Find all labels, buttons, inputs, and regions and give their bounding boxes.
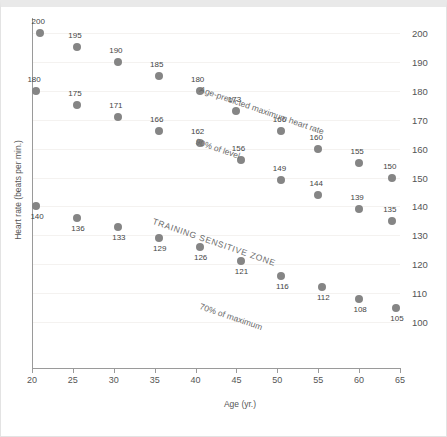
y-axis-tick-label: 120	[412, 259, 428, 270]
gridline	[32, 322, 400, 323]
data-point-label: 133	[112, 233, 125, 242]
x-axis-tick	[73, 368, 74, 373]
x-axis-tick-label: 55	[313, 375, 323, 385]
data-point	[388, 174, 396, 182]
data-point-label: 180	[191, 75, 204, 84]
x-axis-tick	[318, 368, 319, 373]
data-point-label: 155	[350, 147, 363, 156]
data-point-label: 149	[273, 164, 286, 173]
x-axis-tick	[32, 368, 33, 373]
x-axis-tick	[359, 368, 360, 373]
data-point	[314, 145, 322, 153]
data-point	[237, 257, 245, 265]
gridline	[32, 178, 400, 179]
data-point-label: 129	[153, 244, 166, 253]
data-point-label: 171	[109, 101, 122, 110]
y-axis-tick-label: 100	[412, 317, 428, 328]
data-point-label: 116	[276, 282, 289, 291]
data-point-label: 108	[353, 305, 366, 314]
data-point-label: 190	[109, 46, 122, 55]
data-point	[32, 87, 40, 95]
gridline	[32, 62, 400, 63]
data-point	[314, 191, 322, 199]
data-point	[155, 127, 163, 135]
x-axis-tick-label: 30	[109, 375, 119, 385]
gridline	[32, 293, 400, 294]
data-point	[388, 217, 396, 225]
data-point-label: 185	[150, 60, 163, 69]
data-point-label: 200	[31, 17, 44, 26]
data-point-label: 140	[30, 212, 43, 221]
y-axis-tick-label: 180	[412, 85, 428, 96]
y-axis-tick-label: 200	[412, 28, 428, 39]
data-point-label: 121	[235, 267, 248, 276]
gridline	[32, 264, 400, 265]
x-axis-tick-label: 35	[150, 375, 160, 385]
y-axis-tick-label: 140	[412, 201, 428, 212]
x-axis-tick	[400, 368, 401, 373]
x-axis-tick	[277, 368, 278, 373]
y-axis-tick-label: 110	[412, 288, 427, 299]
data-point-label: 150	[383, 162, 396, 171]
data-point-label: 139	[350, 193, 363, 202]
data-point	[155, 234, 163, 242]
gridline	[32, 33, 400, 34]
gridline	[32, 235, 400, 236]
y-axis-tick-label: 190	[412, 56, 428, 67]
data-point-label: 162	[191, 127, 204, 136]
data-point-label: 195	[68, 31, 81, 40]
x-axis-tick-label: 25	[68, 375, 78, 385]
data-point	[114, 223, 122, 231]
data-point-label: 136	[71, 224, 84, 233]
x-axis-tick	[236, 368, 237, 373]
scatter-chart: 20253035404550556065 2001901801701601501…	[0, 0, 447, 437]
data-point-label: 105	[390, 314, 403, 323]
x-axis-tick-label: 60	[354, 375, 364, 385]
data-point	[73, 214, 81, 222]
data-point-label: 175	[68, 89, 81, 98]
data-point-label: 112	[317, 293, 330, 302]
x-axis-tick-label: 40	[191, 375, 201, 385]
data-point-label: 144	[310, 179, 323, 188]
data-point-label: 135	[383, 205, 396, 214]
y-axis-title: Heart rate (beats per min.)	[13, 130, 23, 250]
x-axis-tick-label: 20	[27, 375, 37, 385]
data-point	[114, 58, 122, 66]
data-point	[196, 243, 204, 251]
data-point	[114, 113, 122, 121]
gridline	[32, 120, 400, 121]
data-point	[392, 304, 400, 312]
y-axis-line	[32, 18, 33, 368]
x-axis-tick-label: 50	[272, 375, 282, 385]
y-axis-tick-label: 150	[412, 172, 428, 183]
x-axis-tick-label: 65	[395, 375, 405, 385]
x-axis-tick	[196, 368, 197, 373]
data-point-label: 126	[194, 253, 207, 262]
x-axis-tick	[114, 368, 115, 373]
y-axis-tick-label: 170	[412, 114, 428, 125]
y-axis-tick-label: 130	[412, 230, 428, 241]
x-axis-tick-label: 45	[231, 375, 241, 385]
x-axis-line	[32, 368, 400, 369]
gridline	[32, 206, 400, 207]
data-point-label: 180	[27, 75, 40, 84]
data-point-label: 166	[150, 115, 163, 124]
x-axis-title: Age (yr.)	[185, 399, 295, 409]
x-axis-tick	[155, 368, 156, 373]
data-point	[355, 295, 363, 303]
y-axis-tick-label: 160	[412, 143, 428, 154]
